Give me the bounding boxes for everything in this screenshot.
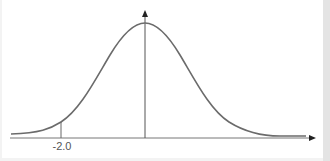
normal-curve-diagram <box>0 0 330 161</box>
marker-label: -2.0 <box>48 140 76 152</box>
bell-curve <box>11 23 306 136</box>
